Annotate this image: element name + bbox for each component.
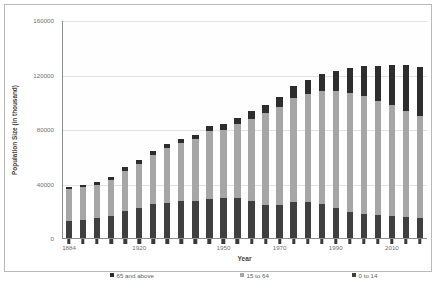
- bar-segment-0-to-14: [136, 208, 142, 239]
- x-tick: [362, 239, 365, 244]
- bar-2000[interactable]: [361, 21, 367, 239]
- bar-segment-0-to-14: [80, 220, 86, 239]
- gridline: [62, 76, 427, 77]
- bar-1990[interactable]: [333, 21, 339, 239]
- bar-2020[interactable]: [417, 21, 423, 239]
- x-tick: [306, 239, 309, 244]
- bar-segment-15-to-64: [290, 98, 296, 202]
- legend-item-65-and-above[interactable]: 65 and above: [110, 272, 154, 279]
- bar-2015[interactable]: [403, 21, 409, 239]
- bar-segment-15-to-64: [248, 119, 254, 201]
- x-axis-ticks: [62, 239, 427, 244]
- bar-segment-15-to-64: [403, 111, 409, 217]
- chart-legend: 65 and above 15 to 64 0 to 14: [62, 269, 427, 281]
- bar-segment-15-to-64: [389, 105, 395, 216]
- bar-segment-15-to-64: [108, 180, 114, 216]
- bar-segment-0-to-14: [417, 218, 423, 239]
- legend-label-65-and-above: 65 and above: [117, 272, 155, 279]
- bar-1960[interactable]: [248, 21, 254, 239]
- x-tick-label: 1990: [329, 245, 343, 251]
- bar-1980[interactable]: [305, 21, 311, 239]
- x-axis-title: Year: [62, 255, 427, 262]
- bar-1965[interactable]: [262, 21, 268, 239]
- x-tick: [376, 239, 379, 244]
- x-tick: [109, 239, 112, 244]
- bar-segment-15-to-64: [276, 107, 282, 205]
- bar-2010[interactable]: [389, 21, 395, 239]
- y-tick-label: 0: [51, 236, 54, 242]
- bar-segment-15-to-64: [164, 148, 170, 203]
- bar-1975[interactable]: [290, 21, 296, 239]
- x-tick: [292, 239, 295, 244]
- bar-segment-15-to-64: [206, 131, 212, 199]
- bar-segment-65-and-above: [276, 97, 282, 107]
- x-tick: [152, 239, 155, 244]
- bar-segment-65-and-above: [361, 66, 367, 96]
- bar-1940[interactable]: [192, 21, 198, 239]
- bar-segment-65-and-above: [375, 66, 381, 101]
- bar-segment-65-and-above: [290, 86, 296, 98]
- y-tick-label: 40000: [37, 181, 54, 187]
- bar-segment-0-to-14: [206, 199, 212, 239]
- bar-segment-15-to-64: [417, 116, 423, 218]
- bar-segment-0-to-14: [108, 216, 114, 239]
- bar-segment-15-to-64: [94, 185, 100, 218]
- x-tick: [166, 239, 169, 244]
- x-tick: [95, 239, 98, 244]
- x-tick: [208, 239, 211, 244]
- bar-segment-15-to-64: [234, 124, 240, 198]
- bar-segment-65-and-above: [333, 71, 339, 91]
- bar-1995[interactable]: [347, 21, 353, 239]
- legend-swatch-65-and-above: [110, 273, 114, 277]
- bar-segment-15-to-64: [347, 93, 353, 212]
- bar-segment-0-to-14: [150, 204, 156, 239]
- gridline: [62, 130, 427, 131]
- bar-segment-15-to-64: [305, 94, 311, 201]
- bar-1925[interactable]: [150, 21, 156, 239]
- chart-frame: Population Size (in thousand) 0400008000…: [4, 4, 432, 272]
- bar-1935[interactable]: [178, 21, 184, 239]
- legend-label-0-to-14: 0 to 14: [359, 272, 378, 279]
- bar-segment-15-to-64: [333, 91, 339, 208]
- x-tick-label: 1920: [132, 245, 146, 251]
- bar-segment-0-to-14: [122, 211, 128, 239]
- bar-segment-0-to-14: [333, 208, 339, 239]
- bar-segment-0-to-14: [305, 202, 311, 239]
- bar-1898[interactable]: [94, 21, 100, 239]
- legend-item-15-to-64[interactable]: 15 to 64: [240, 272, 269, 279]
- bar-1985[interactable]: [319, 21, 325, 239]
- bar-1890[interactable]: [80, 21, 86, 239]
- y-tick-label: 160000: [33, 18, 54, 24]
- bar-1913[interactable]: [122, 21, 128, 239]
- bar-1950[interactable]: [220, 21, 226, 239]
- x-tick: [418, 239, 421, 244]
- x-axis-tick-labels: 188419201950197019902010: [62, 245, 427, 255]
- x-tick: [264, 239, 267, 244]
- bar-1947[interactable]: [206, 21, 212, 239]
- legend-item-0-to-14[interactable]: 0 to 14: [352, 272, 377, 279]
- bar-1903[interactable]: [108, 21, 114, 239]
- legend-swatch-0-to-14: [352, 273, 356, 277]
- bar-segment-65-and-above: [347, 68, 353, 93]
- y-tick-label: 120000: [33, 72, 54, 78]
- bar-1920[interactable]: [136, 21, 142, 239]
- bar-segment-15-to-64: [122, 171, 128, 212]
- bar-1955[interactable]: [234, 21, 240, 239]
- bar-segment-15-to-64: [319, 91, 325, 203]
- bar-segment-15-to-64: [262, 113, 268, 204]
- bar-2005[interactable]: [375, 21, 381, 239]
- bar-segment-0-to-14: [361, 214, 367, 239]
- bar-segment-0-to-14: [347, 212, 353, 239]
- bar-1884[interactable]: [66, 21, 72, 239]
- x-tick: [404, 239, 407, 244]
- gridline: [62, 21, 427, 22]
- bar-1970[interactable]: [276, 21, 282, 239]
- x-tick-label: 2010: [385, 245, 399, 251]
- bar-segment-0-to-14: [290, 202, 296, 239]
- bar-segment-0-to-14: [389, 216, 395, 239]
- bar-segment-15-to-64: [220, 130, 226, 198]
- bar-1930[interactable]: [164, 21, 170, 239]
- bar-segment-15-to-64: [192, 139, 198, 201]
- x-tick: [320, 239, 323, 244]
- bar-segment-15-to-64: [375, 101, 381, 216]
